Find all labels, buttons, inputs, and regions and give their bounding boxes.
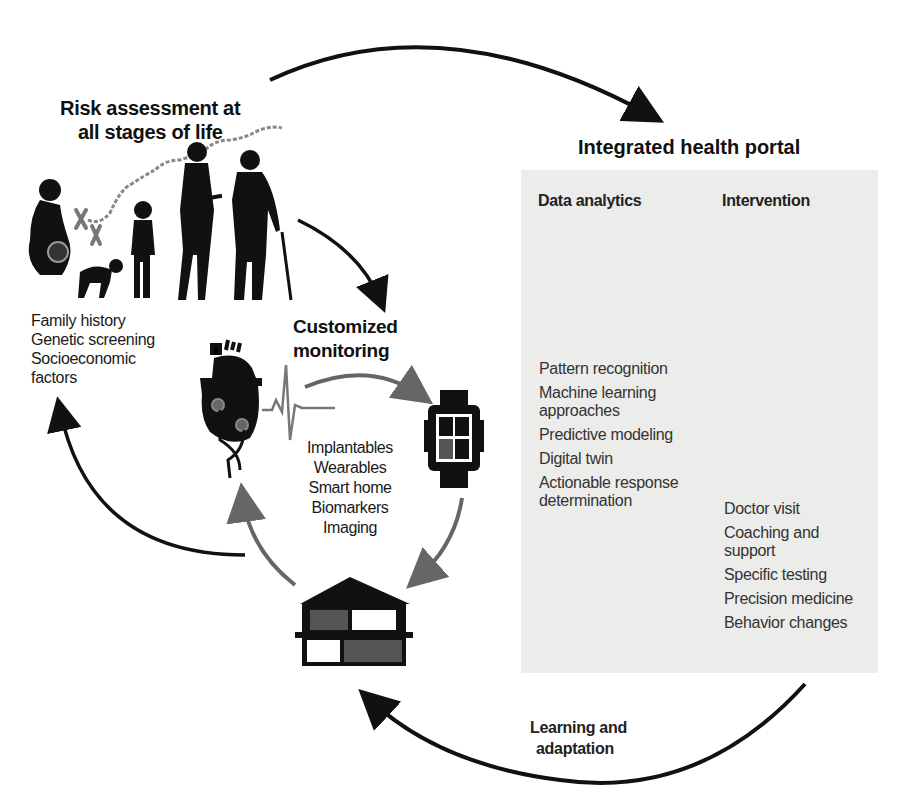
monitoring-title-line2: monitoring [293,339,398,363]
learning-line1: Learning and [530,717,627,738]
smart-home-icon [295,577,413,666]
arrow-heart-to-watch [305,375,420,395]
smartwatch-icon [424,390,484,488]
portal-title: Integrated health portal [578,136,800,159]
monitoring-item: Biomarkers [295,498,405,518]
arrow-house-to-heart [243,498,295,585]
monitoring-item: Wearables [295,458,405,478]
learning-line2: adaptation [530,738,627,759]
analytics-item: determination [539,492,678,510]
data-analytics-heading: Data analytics [538,192,641,210]
people-silhouettes-icon [29,142,291,300]
intervention-item: Precision medicine [724,590,853,608]
risk-assessment-title: Risk assessment at all stages of life [60,96,240,144]
risk-factor: Genetic screening [31,330,155,349]
intervention-item: Specific testing [724,566,853,584]
intervention-item: Doctor visit [724,500,853,518]
chromosome-icon [76,210,100,244]
monitoring-item: Smart home [295,478,405,498]
arrow-watch-to-house [418,498,462,578]
intervention-item: Coaching and [724,524,853,542]
monitoring-item: Imaging [295,518,405,538]
analytics-item: Actionable response [539,474,678,492]
risk-factor: factors [31,368,155,387]
monitoring-title-line1: Customized [293,315,398,339]
monitoring-items-list: Implantables Wearables Smart home Biomar… [295,438,405,538]
analytics-item: Predictive modeling [539,426,678,444]
analytics-item: Pattern recognition [539,360,678,378]
intervention-heading: Intervention [722,192,810,210]
customized-monitoring-title: Customized monitoring [293,315,398,363]
heart-implant-icon [200,340,262,478]
intervention-item: support [724,542,853,560]
intervention-list: Doctor visit Coaching and support Specif… [724,500,853,638]
intervention-item: Behavior changes [724,614,853,632]
analytics-item: approaches [539,402,678,420]
data-analytics-list: Pattern recognition Machine learning app… [539,360,678,516]
learning-adaptation-label: Learning and adaptation [530,717,627,759]
analytics-item: Digital twin [539,450,678,468]
ecg-wave-icon [262,365,335,440]
risk-assessment-title-line1: Risk assessment at [60,96,240,120]
arrow-risk-to-monitoring [298,220,380,300]
risk-factors-list: Family history Genetic screening Socioec… [31,311,155,387]
monitoring-item: Implantables [295,438,405,458]
risk-factor: Family history [31,311,155,330]
risk-factor: Socioeconomic [31,349,155,368]
risk-assessment-title-line2: all stages of life [60,120,240,144]
arrow-risk-to-portal [270,47,650,115]
analytics-item: Machine learning [539,384,678,402]
